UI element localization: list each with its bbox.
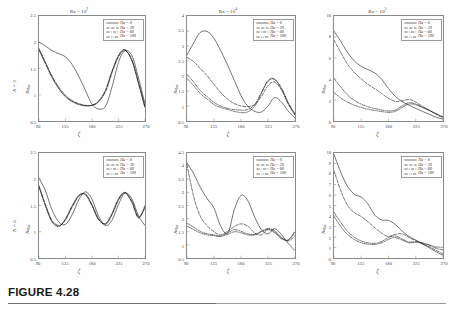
y-tick-label: 1 — [23, 230, 36, 235]
y-tick-label: 6 — [318, 55, 331, 60]
x-tick-label: 135 — [210, 124, 217, 129]
legend-line-swatch — [106, 35, 119, 39]
y-tick-label: 0.5 — [171, 257, 184, 262]
y-tick-label: 10 — [318, 150, 331, 155]
series-line — [334, 78, 443, 117]
x-tick-label: 90 — [36, 261, 41, 266]
y-tick-label: 3 — [171, 43, 184, 48]
series-line — [187, 74, 295, 114]
legend-line-swatch — [256, 172, 269, 176]
legend-line-swatch — [256, 167, 269, 171]
y-tick-label: 1 — [171, 243, 184, 248]
y-tick-label: 4 — [318, 214, 331, 219]
series-line — [39, 42, 145, 109]
legend-line-swatch — [106, 163, 119, 167]
x-tick-label: 90 — [331, 124, 336, 129]
series-line — [39, 178, 145, 225]
x-axis-label: ζ — [8, 131, 150, 137]
x-tick-label: 225 — [413, 124, 420, 129]
x-tick-label: 270 — [143, 124, 150, 129]
legend-line-swatch — [256, 21, 269, 25]
legend-label: Ha = 100 — [418, 34, 434, 38]
x-tick-label: 135 — [357, 261, 364, 266]
legend-line-swatch — [404, 172, 417, 176]
legend-line-swatch — [404, 167, 417, 171]
y-tick-label: 2 — [171, 216, 184, 221]
legend: Ha = 0Ha = 20Ha = 60Ha = 100 — [401, 156, 442, 178]
x-tick-label: 180 — [238, 124, 245, 129]
x-tick-label: 270 — [293, 124, 300, 129]
legend: Ha = 0Ha = 20Ha = 60Ha = 100 — [103, 156, 144, 178]
legend-label: Ha = 100 — [270, 171, 286, 175]
y-tick-label: 9 — [318, 160, 331, 165]
y-tick-label: 4 — [171, 163, 184, 168]
figure-caption: FIGURE 4.28 — [8, 286, 79, 298]
x-tick-label: 135 — [210, 261, 217, 266]
legend-line-swatch — [256, 35, 269, 39]
y-tick-label: 4.5 — [171, 150, 184, 155]
legend: Ha = 0Ha = 20Ha = 60Ha = 100 — [103, 19, 144, 41]
series-line — [39, 49, 145, 107]
x-tick-label: 135 — [62, 261, 69, 266]
y-tick-label: 8 — [318, 171, 331, 176]
legend-line-swatch — [106, 158, 119, 162]
x-axis-label: ζ — [305, 131, 450, 137]
x-tick-label: 180 — [385, 261, 392, 266]
panel-n6-ra1e3: N = 6 Nuloc Ha = 0Ha = 20Ha = 60Ha = 100… — [8, 146, 150, 280]
legend-line-swatch — [404, 21, 417, 25]
legend: Ha = 0Ha = 20Ha = 60Ha = 100 — [253, 156, 294, 178]
y-tick-label: 1.5 — [23, 66, 36, 71]
legend-line-swatch — [256, 158, 269, 162]
y-tick-label: 2.5 — [23, 13, 36, 18]
y-tick-label: 3 — [171, 190, 184, 195]
y-tick-label: 0 — [318, 120, 331, 125]
x-tick-label: 225 — [265, 261, 272, 266]
y-tick-label: 1 — [23, 93, 36, 98]
x-tick-label: 225 — [116, 124, 123, 129]
legend-item: Ha = 100 — [404, 171, 439, 175]
panel-n6-ra1e4: Nuloc Ha = 0Ha = 20Ha = 60Ha = 100 4.543… — [155, 146, 301, 280]
x-tick-label: 180 — [89, 261, 96, 266]
figure-4-28: Ra = 103 N = 3 Nuloc Ha = 0Ha = 20Ha = 6… — [0, 0, 454, 315]
x-tick-label: 270 — [441, 261, 448, 266]
caption-rule-thin — [216, 303, 446, 304]
caption-rule — [8, 303, 216, 304]
y-tick-label: 8 — [318, 34, 331, 39]
y-tick-label: 2 — [318, 98, 331, 103]
panel-n6-ra1e5: Nuloc Ha = 0Ha = 20Ha = 60Ha = 100 10987… — [305, 146, 450, 280]
series-line — [334, 217, 443, 248]
legend-item: Ha = 100 — [106, 34, 141, 38]
legend-line-swatch — [404, 35, 417, 39]
x-tick-label: 270 — [293, 261, 300, 266]
legend-line-swatch — [106, 30, 119, 34]
series-line — [334, 171, 443, 254]
legend-line-swatch — [256, 26, 269, 30]
row-label-n6: N = 6 — [12, 220, 17, 232]
legend-line-swatch — [404, 163, 417, 167]
series-line — [334, 31, 443, 119]
row-label-n3: N = 3 — [12, 80, 17, 92]
x-tick-label: 135 — [357, 124, 364, 129]
x-tick-label: 180 — [238, 261, 245, 266]
y-tick-label: 2 — [171, 74, 184, 79]
y-tick-label: 0.5 — [23, 120, 36, 125]
legend-line-swatch — [404, 30, 417, 34]
x-tick-label: 225 — [413, 261, 420, 266]
legend-label: Ha = 100 — [270, 34, 286, 38]
y-tick-label: 1 — [171, 104, 184, 109]
series-line — [39, 50, 145, 108]
legend-label: Ha = 100 — [418, 171, 434, 175]
y-tick-label: 3.5 — [171, 176, 184, 181]
series-line — [187, 57, 295, 115]
x-tick-label: 90 — [36, 124, 41, 129]
y-tick-label: 4 — [318, 77, 331, 82]
x-axis-label: ζ — [155, 268, 301, 274]
x-tick-label: 270 — [143, 261, 150, 266]
y-tick-label: 10 — [318, 13, 331, 18]
y-tick-label: 7 — [318, 182, 331, 187]
panel-n3-ra1e5: Ra = 105 Nuloc Ha = 0Ha = 20Ha = 60Ha = … — [305, 6, 450, 140]
y-tick-label: 2 — [318, 235, 331, 240]
x-tick-label: 90 — [184, 261, 189, 266]
x-tick-label: 135 — [62, 124, 69, 129]
y-tick-label: 2.5 — [23, 150, 36, 155]
